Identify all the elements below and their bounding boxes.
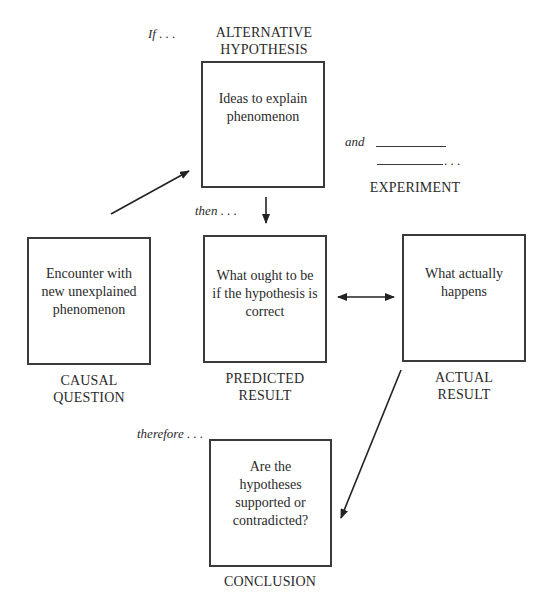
connector-arrows xyxy=(0,0,549,611)
arrow-actual-to-conclusion xyxy=(341,370,401,518)
arrow-question-to-hypothesis xyxy=(111,171,189,214)
